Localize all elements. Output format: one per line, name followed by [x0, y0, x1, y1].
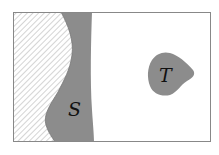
label-s: S: [68, 98, 81, 120]
diagram-canvas: S T: [0, 0, 219, 155]
label-t: T: [159, 64, 173, 86]
